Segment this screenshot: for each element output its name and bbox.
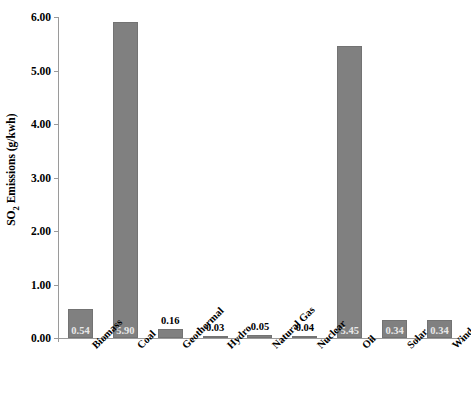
- bar-value-label: 0.05: [251, 321, 269, 332]
- y-axis-tick-label: 2.00: [31, 225, 51, 237]
- x-axis-label-biomass: Biomass: [90, 343, 98, 351]
- bar-oil[interactable]: [337, 46, 362, 338]
- x-axis-label-coal: Coal: [135, 343, 143, 351]
- bar-value-label: 0.34: [430, 325, 448, 336]
- x-axis-label-wind: Wind: [450, 343, 458, 351]
- y-axis-tick-label: 0.00: [31, 332, 51, 344]
- bar-nuclear[interactable]: [292, 336, 317, 338]
- x-axis-label-solar: Solar: [405, 343, 413, 351]
- x-axis-category-labels: BiomassCoalGeothermalHydroNatural GasNuc…: [58, 340, 462, 400]
- bar-slot: 0.04: [282, 17, 327, 338]
- y-axis-tick-label: 4.00: [31, 118, 51, 130]
- y-axis-title-subscript: 2: [11, 207, 21, 211]
- y-axis-title-suffix: Emissions (g/kwh): [5, 114, 17, 207]
- bar-hydro[interactable]: [203, 336, 228, 338]
- bar-slot: 0.05: [238, 17, 283, 338]
- y-axis-title: SO2 Emissions (g/kwh): [2, 0, 24, 340]
- bar-value-label: 0.54: [71, 325, 89, 336]
- bar-coal[interactable]: [113, 22, 138, 338]
- y-axis-tick-label: 1.00: [31, 279, 51, 291]
- bar-natural-gas[interactable]: [247, 335, 272, 338]
- bar-slot: 0.54: [58, 17, 103, 338]
- bar-slot: 0.16: [148, 17, 193, 338]
- x-axis-label-natural-gas: Natural Gas: [270, 343, 278, 351]
- bar-value-label: 0.34: [385, 325, 403, 336]
- plot-area: 0.001.002.003.004.005.006.00 0.545.900.1…: [58, 17, 462, 338]
- bar-slot: 0.34: [372, 17, 417, 338]
- y-axis-tick-label: 3.00: [31, 172, 51, 184]
- bar-geothermal[interactable]: [158, 329, 183, 338]
- bar-slot: 5.90: [103, 17, 148, 338]
- y-axis-tick-label: 6.00: [31, 11, 51, 23]
- bar-value-label: 0.16: [161, 315, 179, 326]
- y-axis-tick-label: 5.00: [31, 65, 51, 77]
- x-axis-label-geothermal: Geothermal: [180, 343, 188, 351]
- x-axis-line: [58, 338, 462, 339]
- x-axis-label-hydro: Hydro: [225, 343, 233, 351]
- bar-slot: 0.03: [193, 17, 238, 338]
- bar-slot: 5.45: [327, 17, 372, 338]
- y-axis-title-prefix: SO: [5, 211, 17, 226]
- x-axis-label-oil: Oil: [360, 343, 368, 351]
- bar-slot: 0.34: [417, 17, 462, 338]
- x-axis-label-nuclear: Nuclear: [315, 343, 323, 351]
- so2-emissions-bar-chart: SO2 Emissions (g/kwh) 0.001.002.003.004.…: [0, 0, 471, 400]
